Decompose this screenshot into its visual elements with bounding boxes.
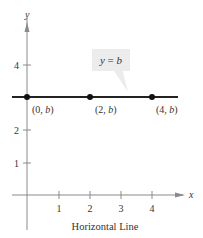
y-tick-label-2: 2 [14,125,19,136]
x-tick-label-4: 4 [150,203,155,214]
x-tick-label-1: 1 [57,203,62,214]
y-tick-label-1: 1 [14,158,19,169]
y-axis-arrow-icon [25,22,30,32]
callout-pointer [112,68,128,92]
horizontal-line-chart: y x 1 2 3 4 1 2 4 y = b (0, b) (2, b) (4… [0,0,203,238]
x-axis-label: x [188,189,194,200]
x-axis-arrow-icon [175,193,185,198]
point-4-b [149,94,155,100]
point-label-0-b: (0, b) [32,104,54,116]
point-2-b [87,94,93,100]
callout-label: y = b [99,54,123,66]
x-tick-label-2: 2 [88,203,93,214]
point-label-2-b: (2, b) [95,104,117,116]
chart-caption: Horizontal Line [72,221,139,232]
y-axis-label: y [24,9,30,20]
x-tick-label-3: 3 [119,203,124,214]
point-0-b [24,94,30,100]
point-label-4-b: (4, b) [156,104,178,116]
y-tick-label-4: 4 [14,60,19,71]
